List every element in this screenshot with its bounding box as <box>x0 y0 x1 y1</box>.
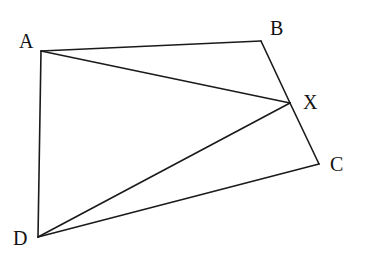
diagram-svg: A B X C D <box>0 0 367 266</box>
label-D: D <box>13 227 27 249</box>
geometry-diagram: A B X C D <box>0 0 367 266</box>
label-X: X <box>303 91 318 113</box>
label-C: C <box>330 153 343 175</box>
labels-group: A B X C D <box>13 17 343 249</box>
segment-AB <box>41 41 261 51</box>
segments-group <box>38 41 319 237</box>
segment-BX <box>261 41 290 103</box>
segment-DA <box>38 51 41 237</box>
label-B: B <box>270 17 283 39</box>
segment-DX <box>38 103 290 237</box>
label-A: A <box>19 30 34 52</box>
segment-AX <box>41 51 290 103</box>
segment-CD <box>38 164 319 237</box>
